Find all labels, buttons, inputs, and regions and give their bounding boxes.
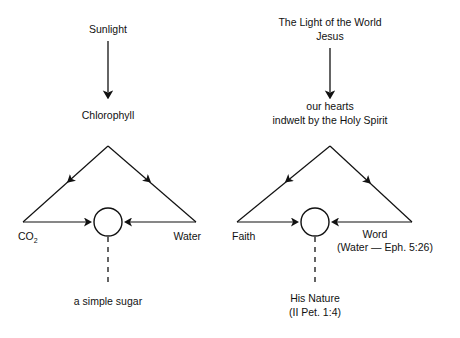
left-input-label-spiritual: Faith bbox=[232, 230, 256, 242]
analogy-diagram: Sunlight Chlorophyll CO2 Water a simple … bbox=[0, 0, 460, 338]
left-input-subscript-photosynthesis: 2 bbox=[34, 237, 38, 244]
reaction-node-spiritual bbox=[301, 208, 329, 236]
left-input-text-photosynthesis: CO bbox=[18, 230, 34, 242]
agent-label-line2-spiritual: indwelt by the Holy Spirit bbox=[273, 114, 388, 126]
source-label-spiritual: The Light of the World bbox=[278, 16, 381, 28]
right-input-label-photosynthesis: Water bbox=[173, 230, 201, 242]
canvas-background bbox=[0, 0, 460, 338]
output-label-photosynthesis: a simple sugar bbox=[74, 295, 143, 307]
source-label-photosynthesis: Sunlight bbox=[89, 23, 127, 35]
agent-label-spiritual: our hearts bbox=[306, 100, 353, 112]
reaction-node-photosynthesis bbox=[94, 208, 122, 236]
output-label-line2-spiritual: (II Pet. 1:4) bbox=[289, 306, 341, 318]
agent-label-photosynthesis: Chlorophyll bbox=[82, 109, 135, 121]
source-label-line2-spiritual: Jesus bbox=[316, 30, 343, 42]
right-input-label-spiritual: Word bbox=[363, 228, 388, 240]
output-label-spiritual: His Nature bbox=[290, 292, 340, 304]
right-input-note-spiritual: (Water — Eph. 5:26) bbox=[337, 241, 433, 253]
